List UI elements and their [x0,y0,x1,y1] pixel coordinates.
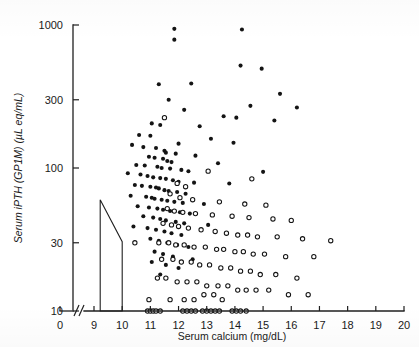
data-point-open [176,224,180,228]
data-point-open [171,257,175,261]
data-point-open [250,177,254,181]
data-point-open [241,250,245,254]
data-point-open [186,226,190,230]
data-point-filled [231,141,235,145]
data-point-open [244,288,248,292]
normal-range-region [100,200,122,311]
data-point-open [183,185,187,189]
data-point-filled [260,67,264,71]
data-point-filled [154,228,158,232]
data-point-open [243,202,247,206]
data-point-filled [137,133,141,137]
data-point-open [205,284,209,288]
data-point-open [216,284,220,288]
data-point-open [192,245,196,249]
data-point-filled [146,174,150,178]
data-point-filled [162,229,166,233]
data-point-filled [193,154,197,158]
x-tick-label-10: 10 [116,319,128,331]
x-tick-label-11: 11 [145,319,156,331]
y-axis-title: Serum iPTH (GP1M) (µL eq/mL) [12,93,24,244]
data-point-filled [179,233,183,237]
data-point-filled [133,183,137,187]
data-point-open [286,293,290,297]
y-tick-label-30: 30 [51,237,63,249]
data-point-filled [164,151,168,155]
data-point-open [219,266,223,270]
data-point-filled [153,250,157,254]
data-point-filled [151,216,155,220]
y-tick-label-1000: 1000 [39,19,63,31]
data-point-filled [184,192,188,196]
data-point-open [179,260,183,264]
data-point-filled [157,186,161,190]
data-point-filled [198,124,202,128]
data-point-filled [138,172,142,176]
data-point-filled [153,197,157,201]
data-point-filled [148,237,152,241]
x-axis-title: Serum calcium (mg/dL) [178,330,287,342]
data-point-open [174,243,178,247]
data-point-filled [177,266,181,270]
data-point-open [230,214,234,218]
plot-canvas: 10301003001000910111213141516171819200Se… [0,0,419,347]
data-point-filled [248,104,252,108]
data-point-open [181,210,185,214]
data-point-open [157,241,161,245]
data-point-open [300,237,304,241]
data-point-filled [261,170,265,174]
data-point-filled [158,123,162,127]
data-point-open [283,254,287,258]
data-point-filled [227,181,231,185]
x-tick-label-19: 19 [370,319,382,331]
data-point-open [258,272,262,276]
data-point-open [185,280,189,284]
data-point-filled [192,181,196,185]
data-point-open [202,293,206,297]
data-point-open [212,293,216,297]
axes-layer [60,25,404,316]
data-point-open [226,284,230,288]
data-point-filled [174,152,178,156]
data-point-open [203,245,207,249]
data-point-open [262,252,266,256]
data-point-filled [160,198,164,202]
data-point-filled [188,212,192,216]
data-point-filled [158,176,162,180]
data-point-filled [162,188,166,192]
data-point-filled [209,137,213,141]
axis-break-slash-2 [79,305,84,316]
data-point-open [254,288,258,292]
data-point-filled [182,108,186,112]
data-point-filled [136,204,140,208]
data-point-open [214,247,218,251]
data-point-open [245,233,249,237]
data-point-filled [141,145,145,149]
series-1 [126,27,299,277]
data-point-open [329,239,333,243]
data-point-filled [157,82,161,86]
data-point-filled [206,223,210,227]
x-tick-label-16: 16 [285,319,297,331]
data-point-filled [153,156,157,160]
data-point-open [274,272,278,276]
data-point-filled [164,263,168,267]
data-point-open [295,276,299,280]
data-point-open [182,298,186,302]
data-point-open [178,196,182,200]
data-point-filled [129,194,133,198]
data-point-open [210,213,214,217]
data-point-open [195,280,199,284]
x-tick-label-origin: 0 [57,319,63,331]
data-point-filled [272,118,276,122]
data-point-open [190,198,194,202]
data-point-open [168,192,172,196]
data-point-open [172,209,176,213]
data-point-open [207,263,211,267]
data-point-open [192,298,196,302]
data-point-filled [155,165,159,169]
data-point-filled [222,114,226,118]
series-2 [133,115,333,313]
data-point-open [247,215,251,219]
data-point-filled [161,157,165,161]
